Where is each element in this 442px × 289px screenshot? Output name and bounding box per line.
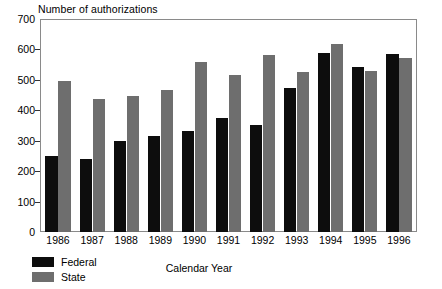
bar-federal-1990	[182, 131, 194, 232]
bar-state-1990	[195, 62, 207, 233]
x-axis-tick-label: 1994	[319, 234, 342, 246]
x-axis-tick-labels: 1986198719881989199019911992199319941995…	[40, 234, 417, 248]
bar-state-1986	[58, 81, 70, 232]
bar-group	[114, 20, 139, 232]
x-axis-label-text: Calendar Year	[166, 262, 233, 274]
x-axis-tick-label: 1991	[217, 234, 240, 246]
legend-label-state: State	[61, 271, 86, 283]
bar-state-1995	[365, 71, 377, 232]
x-axis-tick-label: 1995	[353, 234, 376, 246]
y-axis-tick-label: 300	[17, 135, 35, 147]
bar-group	[182, 20, 207, 232]
bar-state-1994	[331, 44, 343, 232]
bar-group	[216, 20, 241, 232]
y-axis-tick-mark	[35, 80, 40, 81]
plot-area	[41, 20, 416, 232]
bar-federal-1986	[45, 156, 57, 232]
legend-item-federal: Federal	[32, 255, 97, 269]
x-axis-tick-label: 1989	[149, 234, 172, 246]
y-axis-tick-label: 700	[17, 13, 35, 25]
bar-state-1992	[263, 55, 275, 232]
legend-swatch-state-icon	[32, 272, 54, 282]
y-axis-tick-mark	[35, 49, 40, 50]
bar-group	[284, 20, 309, 232]
bar-state-1988	[127, 96, 139, 232]
bar-federal-1993	[284, 88, 296, 232]
bar-federal-1996	[386, 54, 398, 232]
bar-chart-figure: Number of authorizations 010020030040050…	[0, 0, 442, 289]
bar-state-1993	[297, 72, 309, 232]
legend: Federal State	[32, 255, 97, 285]
bar-federal-1987	[80, 159, 92, 232]
legend-label-federal: Federal	[61, 256, 97, 268]
x-axis-tick-label: 1987	[80, 234, 103, 246]
bar-federal-1995	[352, 67, 364, 232]
bar-federal-1994	[318, 53, 330, 232]
y-axis-tick-label: 500	[17, 74, 35, 86]
y-axis-tick-label: 600	[17, 43, 35, 55]
bar-group	[318, 20, 343, 232]
x-axis-tick-label: 1996	[387, 234, 410, 246]
bar-group	[352, 20, 377, 232]
x-axis-tick-label: 1988	[115, 234, 138, 246]
legend-swatch-federal-icon	[32, 257, 54, 267]
x-axis-tick-label: 1990	[183, 234, 206, 246]
x-axis-tick-label: 1992	[251, 234, 274, 246]
y-axis-tick-label: 100	[17, 196, 35, 208]
bar-group	[250, 20, 275, 232]
y-axis-tick-mark	[35, 202, 40, 203]
x-axis-tick-label: 1986	[46, 234, 69, 246]
bar-federal-1989	[148, 136, 160, 232]
y-axis-tick-mark	[35, 171, 40, 172]
bar-group	[80, 20, 105, 232]
y-axis-tick-label: 0	[29, 226, 35, 238]
y-axis-tick-mark	[35, 110, 40, 111]
y-axis-tick-mark	[35, 141, 40, 142]
y-axis-tick-label: 200	[17, 165, 35, 177]
bar-state-1987	[93, 99, 105, 232]
chart-title: Number of authorizations	[38, 3, 158, 15]
bar-group	[148, 20, 173, 232]
x-axis-tick-label: 1993	[285, 234, 308, 246]
bar-state-1996	[399, 58, 411, 232]
bar-group	[45, 20, 70, 232]
bar-federal-1988	[114, 141, 126, 232]
bar-federal-1991	[216, 118, 228, 232]
bar-federal-1992	[250, 125, 262, 232]
bar-state-1989	[161, 90, 173, 232]
bar-state-1991	[229, 75, 241, 232]
bar-group	[386, 20, 411, 232]
legend-item-state: State	[32, 270, 97, 284]
y-axis-tick-label: 400	[17, 104, 35, 116]
